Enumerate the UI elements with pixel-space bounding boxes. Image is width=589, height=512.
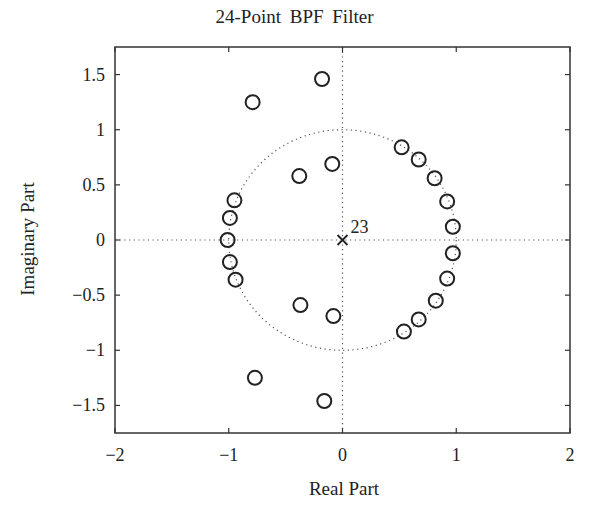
zero-marker xyxy=(293,298,307,312)
zero-marker xyxy=(325,157,339,171)
zero-marker xyxy=(412,152,426,166)
zero-marker xyxy=(317,394,331,408)
zero-marker xyxy=(397,325,411,339)
zero-marker xyxy=(446,246,460,260)
y-tick-label: 0.5 xyxy=(83,175,106,195)
x-tick-label: 0 xyxy=(338,445,347,465)
pole-count-label: 23 xyxy=(351,217,369,237)
zero-marker xyxy=(326,309,340,323)
y-tick-label: 1 xyxy=(96,120,105,140)
zero-marker xyxy=(223,211,237,225)
zero-marker xyxy=(428,171,442,185)
x-tick-label: 2 xyxy=(566,445,575,465)
zero-marker xyxy=(315,72,329,86)
x-tick-label: 1 xyxy=(452,445,461,465)
zero-marker xyxy=(412,312,426,326)
zero-marker xyxy=(429,294,443,308)
y-tick-label: −0.5 xyxy=(72,285,105,305)
zero-marker xyxy=(227,193,241,207)
zero-marker xyxy=(246,95,260,109)
zero-marker xyxy=(248,371,262,385)
pole-zero-plot: −2−10121.510.50−0.5−1−1.523 xyxy=(0,0,589,512)
y-tick-label: 1.5 xyxy=(83,65,106,85)
y-tick-label: 0 xyxy=(96,230,105,250)
y-tick-label: −1.5 xyxy=(72,395,105,415)
y-tick-label: −1 xyxy=(86,340,105,360)
x-tick-label: −2 xyxy=(105,445,124,465)
zero-marker xyxy=(446,220,460,234)
zero-marker xyxy=(292,169,306,183)
x-tick-label: −1 xyxy=(219,445,238,465)
zero-marker xyxy=(440,272,454,286)
zero-marker xyxy=(395,140,409,154)
zero-marker xyxy=(229,273,243,287)
